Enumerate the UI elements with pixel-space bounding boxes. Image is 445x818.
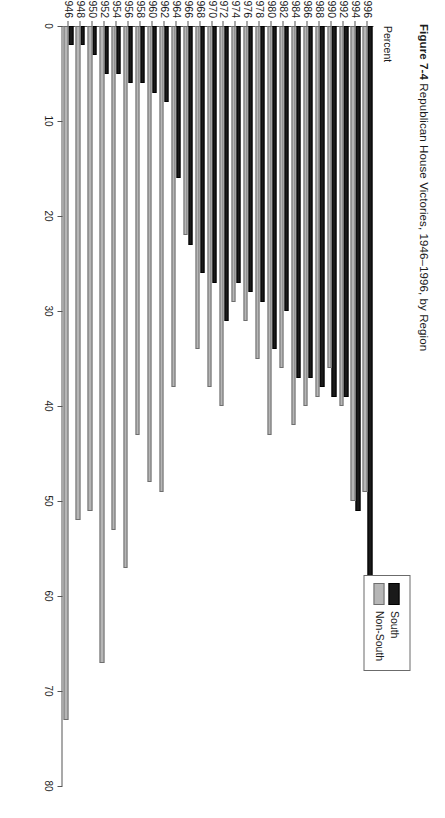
category-label-1994: 1994 bbox=[349, 0, 361, 18]
value-tick-label-10: 10 bbox=[42, 104, 53, 138]
bar-south-1970 bbox=[212, 26, 216, 283]
category-label-1968: 1968 bbox=[194, 0, 206, 18]
value-tick bbox=[57, 216, 62, 217]
bar-south-1964 bbox=[176, 26, 180, 178]
category-tick bbox=[258, 21, 259, 26]
bar-non-south-1958 bbox=[135, 26, 139, 435]
category-label-1960: 1960 bbox=[146, 0, 158, 18]
category-tick bbox=[67, 21, 68, 26]
category-label-1980: 1980 bbox=[265, 0, 277, 18]
category-label-1976: 1976 bbox=[241, 0, 253, 18]
category-label-1984: 1984 bbox=[289, 0, 301, 18]
bar-non-south-1954 bbox=[111, 26, 115, 530]
category-label-1946: 1946 bbox=[62, 0, 74, 18]
bar-non-south-1968 bbox=[195, 26, 199, 349]
category-tick bbox=[342, 21, 343, 26]
category-label-1986: 1986 bbox=[301, 0, 313, 18]
category-tick bbox=[91, 21, 92, 26]
category-label-1950: 1950 bbox=[86, 0, 98, 18]
bar-south-1966 bbox=[188, 26, 192, 245]
category-tick bbox=[282, 21, 283, 26]
category-tick bbox=[127, 21, 128, 26]
category-label-1990: 1990 bbox=[325, 0, 337, 18]
category-label-1970: 1970 bbox=[206, 0, 218, 18]
value-tick-label-0: 0 bbox=[42, 9, 53, 43]
value-tick-label-30: 30 bbox=[42, 294, 53, 328]
category-label-1982: 1982 bbox=[277, 0, 289, 18]
value-tick-label-80: 80 bbox=[42, 769, 53, 803]
category-tick bbox=[330, 21, 331, 26]
category-tick bbox=[294, 21, 295, 26]
bar-south-1956 bbox=[128, 26, 132, 83]
value-tick-label-40: 40 bbox=[42, 389, 53, 423]
figure-number: Figure 7-4 bbox=[417, 24, 429, 80]
bar-south-1984 bbox=[296, 26, 300, 378]
category-tick bbox=[79, 21, 80, 26]
bar-non-south-1994 bbox=[350, 26, 354, 501]
bar-non-south-1964 bbox=[171, 26, 175, 387]
category-tick bbox=[211, 21, 212, 26]
bar-south-1950 bbox=[92, 26, 96, 55]
value-tick-label-20: 20 bbox=[42, 199, 53, 233]
category-tick bbox=[246, 21, 247, 26]
category-label-1962: 1962 bbox=[158, 0, 170, 18]
category-tick bbox=[139, 21, 140, 26]
value-tick bbox=[57, 311, 62, 312]
value-tick-label-50: 50 bbox=[42, 484, 53, 518]
bar-non-south-1962 bbox=[159, 26, 163, 492]
bar-non-south-1984 bbox=[291, 26, 295, 425]
bar-south-1948 bbox=[80, 26, 84, 45]
category-tick bbox=[103, 21, 104, 26]
bar-non-south-1982 bbox=[279, 26, 283, 368]
value-tick-label-70: 70 bbox=[42, 674, 53, 708]
plot-area: 1946194819501952195419561958196019621964… bbox=[62, 26, 373, 786]
legend-swatch-non-south-icon bbox=[374, 583, 385, 605]
category-tick bbox=[115, 21, 116, 26]
bar-non-south-1956 bbox=[123, 26, 127, 568]
legend-item-south: South bbox=[388, 583, 400, 661]
category-tick bbox=[234, 21, 235, 26]
value-tick bbox=[57, 596, 62, 597]
category-tick bbox=[366, 21, 367, 26]
bar-non-south-1990 bbox=[327, 26, 331, 368]
bars-container bbox=[62, 26, 373, 786]
category-label-1948: 1948 bbox=[74, 0, 86, 18]
bar-non-south-1976 bbox=[243, 26, 247, 321]
value-tick bbox=[57, 26, 62, 27]
bar-south-1976 bbox=[248, 26, 252, 292]
value-axis-title: Percent bbox=[381, 26, 393, 62]
bar-south-1988 bbox=[319, 26, 323, 387]
bar-south-1996 bbox=[367, 26, 371, 577]
bar-non-south-1978 bbox=[255, 26, 259, 359]
figure-caption: Figure 7-4 Republican House Victories, 1… bbox=[417, 24, 429, 351]
category-tick bbox=[199, 21, 200, 26]
bar-south-1980 bbox=[272, 26, 276, 349]
category-tick bbox=[306, 21, 307, 26]
bar-south-1978 bbox=[260, 26, 264, 302]
bar-south-1960 bbox=[152, 26, 156, 93]
bar-non-south-1952 bbox=[99, 26, 103, 663]
figure-page: Figure 7-4 Republican House Victories, 1… bbox=[0, 0, 445, 818]
category-tick bbox=[175, 21, 176, 26]
bar-south-1974 bbox=[236, 26, 240, 283]
bar-non-south-1996 bbox=[362, 26, 366, 492]
category-label-1966: 1966 bbox=[182, 0, 194, 18]
bar-non-south-1988 bbox=[315, 26, 319, 397]
bar-south-1992 bbox=[343, 26, 347, 397]
bar-non-south-1986 bbox=[303, 26, 307, 406]
bar-non-south-1980 bbox=[267, 26, 271, 435]
legend-label-non-south: Non-South bbox=[373, 611, 385, 661]
category-tick bbox=[270, 21, 271, 26]
bar-south-1968 bbox=[200, 26, 204, 273]
bar-non-south-1992 bbox=[339, 26, 343, 406]
bar-non-south-1966 bbox=[183, 26, 187, 235]
bar-non-south-1974 bbox=[231, 26, 235, 302]
category-label-1956: 1956 bbox=[122, 0, 134, 18]
category-label-1988: 1988 bbox=[313, 0, 325, 18]
value-tick bbox=[57, 691, 62, 692]
category-label-1978: 1978 bbox=[253, 0, 265, 18]
bar-non-south-1948 bbox=[75, 26, 79, 520]
category-tick bbox=[187, 21, 188, 26]
category-label-1958: 1958 bbox=[134, 0, 146, 18]
value-tick bbox=[57, 501, 62, 502]
